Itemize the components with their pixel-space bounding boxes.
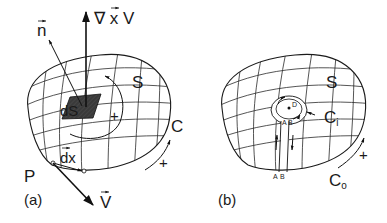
dS-label: dS bbox=[60, 102, 78, 119]
cut-line-A bbox=[279, 121, 281, 172]
normal-vector-arrow bbox=[49, 40, 82, 106]
cut-up-arrow bbox=[276, 135, 277, 150]
dx-end-marker bbox=[82, 169, 86, 173]
surface-label-b: S bbox=[326, 73, 337, 92]
stokes-theorem-figure: ∇ x V n S dS + C + dx P V (a) bbox=[0, 0, 387, 223]
Ci-label: Ci bbox=[324, 108, 339, 128]
point-D-label: D bbox=[292, 101, 297, 108]
velocity-label: V bbox=[100, 193, 112, 212]
cut-A-bottom-label: A bbox=[273, 173, 278, 180]
plus-outer-label: + bbox=[159, 154, 168, 171]
cut-A-top-label: A bbox=[282, 119, 287, 126]
contour-C bbox=[28, 54, 171, 170]
panel-a: ∇ x V n S dS + C + dx P V (a) bbox=[20, 8, 183, 212]
cut-B-top-label: B bbox=[288, 119, 293, 126]
dx-label: dx bbox=[60, 149, 76, 166]
curl-label: ∇ x V bbox=[93, 9, 135, 28]
point-D-marker bbox=[288, 107, 291, 110]
plus-inner-label: + bbox=[110, 107, 119, 124]
caption-a: (a) bbox=[24, 191, 42, 208]
contour-label: C bbox=[171, 117, 183, 136]
surface-label: S bbox=[132, 73, 143, 92]
point-P-label: P bbox=[24, 167, 35, 186]
normal-label: n bbox=[37, 21, 46, 40]
Co-label: Co bbox=[329, 171, 347, 191]
caption-b: (b) bbox=[218, 191, 236, 208]
plus-outer-label-b: + bbox=[359, 146, 368, 163]
cut-down-arrow bbox=[292, 135, 293, 150]
ci-pointer-arrow bbox=[307, 112, 315, 115]
cut-B-bottom-label: B bbox=[280, 173, 285, 180]
panel-b: S D A B A B Ci Co + (b) bbox=[214, 52, 374, 208]
